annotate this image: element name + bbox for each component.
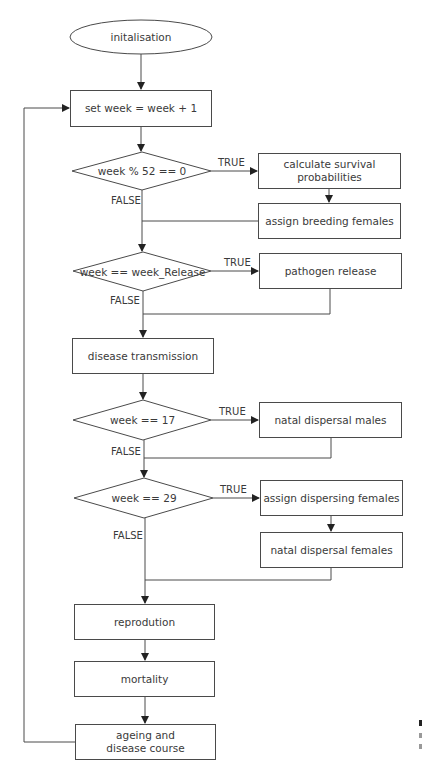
decision-label-week-mod-52: week % 52 == 0 (72, 152, 212, 190)
step-natal-dispersal-males: natal dispersal males (259, 402, 402, 438)
start-node-initialisation: initalisation (70, 20, 212, 54)
step-calculate-survival: calculate survival probabilities (258, 153, 401, 189)
edge-label-false-1: FALSE (111, 195, 141, 206)
ageing-line-2: disease course (106, 742, 184, 755)
edge-label-true-1: TRUE (218, 157, 245, 168)
step-ageing-disease-course: ageing and disease course (75, 724, 216, 760)
decision-label-week-release: week == week_Release (73, 252, 212, 291)
step-assign-dispersing-females: assign dispersing females (260, 480, 403, 516)
edge-label-true-3: TRUE (219, 406, 246, 417)
edge-label-true-2: TRUE (224, 257, 251, 268)
step-disease-transmission: disease transmission (72, 338, 214, 374)
edge-label-false-3: FALSE (111, 446, 141, 457)
edge-label-false-2: FALSE (110, 295, 140, 306)
step-set-week: set week = week + 1 (70, 90, 212, 127)
step-pathogen-release: pathogen release (259, 253, 402, 289)
step-assign-breeding-females: assign breeding females (258, 203, 401, 239)
step-reproduction: reprodution (74, 604, 215, 640)
edge-label-false-4: FALSE (113, 530, 143, 541)
decision-label-week-17: week == 17 (73, 400, 212, 440)
decision-label-week-29: week == 29 (74, 478, 214, 518)
step-natal-dispersal-females: natal dispersal females (260, 532, 403, 568)
edge-label-true-4: TRUE (220, 484, 247, 495)
step-mortality: mortality (74, 661, 215, 697)
ageing-line-1: ageing and (116, 729, 175, 742)
